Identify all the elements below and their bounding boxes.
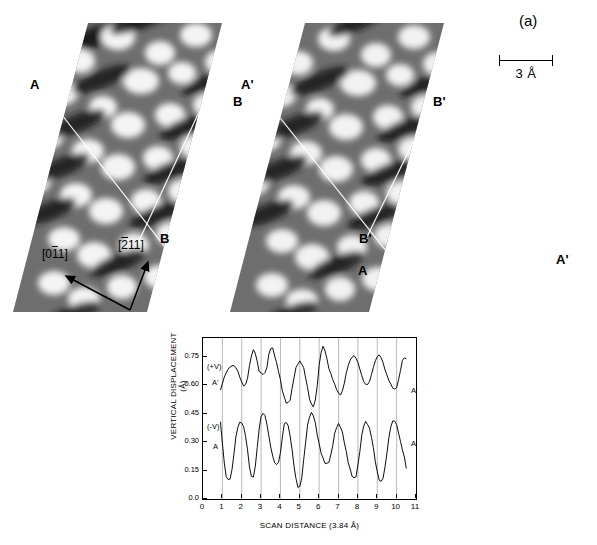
panel-a-label: (a) xyxy=(519,12,537,29)
trace-pos-bias-label: (+V) xyxy=(207,362,221,371)
figure-root: A B B A' B' B' A A' (a) 3 Å xyxy=(0,0,597,545)
stm-panel-group: A B B A' B' B' A A' (a) 3 Å xyxy=(0,0,597,325)
y-axis-tick-label: 0.15 xyxy=(169,465,199,474)
x-axis-tick xyxy=(318,494,319,498)
y-axis-tick xyxy=(203,384,207,385)
x-axis-tick-label: 8 xyxy=(350,502,364,511)
scale-bar-line xyxy=(499,60,553,61)
marker-Bprime-right-top: B' xyxy=(433,94,445,109)
marker-A-right: A xyxy=(358,263,367,278)
x-axis-tick xyxy=(338,494,339,498)
x-axis-tick xyxy=(357,494,358,498)
trace-pos-bias-sublabel: A' xyxy=(212,378,218,387)
x-axis-tick xyxy=(376,494,377,498)
x-axis-tick xyxy=(279,494,280,498)
x-axis-tick xyxy=(202,494,203,498)
trace-neg-bias-label: (-V) xyxy=(207,422,220,431)
marker-Aprime-right-edge: A' xyxy=(556,252,568,267)
direction-label-211: [211] xyxy=(118,238,144,252)
x-axis-tick xyxy=(221,494,222,498)
marker-A-left: A xyxy=(30,77,39,92)
plot-canvas xyxy=(203,338,416,499)
y-axis-tick xyxy=(203,470,207,471)
x-axis-tick-label: 2 xyxy=(234,502,248,511)
y-axis-tick xyxy=(203,413,207,414)
x-axis-tick xyxy=(260,494,261,498)
y-axis-tick xyxy=(203,441,207,442)
y-axis-tick xyxy=(203,356,207,357)
x-axis-tick-label: 1 xyxy=(214,502,228,511)
stm-image-right xyxy=(222,15,522,320)
marker-B-left-top: B xyxy=(233,94,242,109)
line-profile-chart: 0.00.150.300.450.600.7501234567891011 VE… xyxy=(160,325,445,545)
x-axis-title: SCAN DISTANCE (3.84 Å) xyxy=(202,521,417,530)
direction-indicator-group: [011] [211] xyxy=(40,240,190,320)
direction-label-011: [011] xyxy=(42,247,68,261)
marker-Bprime-right-bottom: B' xyxy=(359,231,371,246)
x-axis-tick-label: 0 xyxy=(195,502,209,511)
x-axis-tick xyxy=(299,494,300,498)
x-axis-tick xyxy=(396,494,397,498)
scale-bar-label: 3 Å xyxy=(496,66,556,81)
x-axis-tick-label: 5 xyxy=(292,502,306,511)
x-axis-tick-label: 11 xyxy=(408,502,422,511)
scale-bar-tick-right xyxy=(552,55,553,66)
plot-frame xyxy=(202,337,417,500)
x-axis-tick-label: 10 xyxy=(389,502,403,511)
negative-bias-trace xyxy=(220,412,406,487)
x-axis-tick-label: 6 xyxy=(311,502,325,511)
y-axis-title: VERTICAL DISPLACEMENT (Å) xyxy=(169,326,187,446)
x-axis-tick-label: 3 xyxy=(253,502,267,511)
trace-pos-bias-right-label: A' xyxy=(411,386,417,395)
trace-neg-bias-right-label: A xyxy=(411,439,416,448)
y-axis-tick-label: 0.0 xyxy=(169,493,199,502)
x-axis-tick-label: 9 xyxy=(369,502,383,511)
marker-Aprime-right-top: A' xyxy=(241,77,253,92)
x-axis-tick-label: 4 xyxy=(272,502,286,511)
x-axis-tick xyxy=(415,494,416,498)
x-axis-tick xyxy=(241,494,242,498)
x-axis-tick-label: 7 xyxy=(331,502,345,511)
trace-neg-bias-sublabel: A xyxy=(213,442,218,451)
positive-bias-trace xyxy=(220,346,406,407)
y-axis-tick xyxy=(203,498,207,499)
scale-bar: 3 Å xyxy=(496,55,556,81)
scale-bar-rule xyxy=(496,55,556,65)
